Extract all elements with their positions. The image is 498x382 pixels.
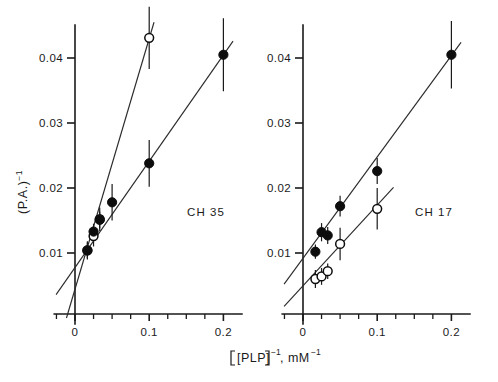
data-point-open — [323, 267, 332, 276]
y-axis-title-main: (P.A.) — [16, 181, 30, 214]
svg-text:(P.A.)−1: (P.A.)−1 — [14, 170, 30, 214]
panel-left: 00.10.20.010.020.030.04CH 35 — [39, 7, 242, 338]
data-point-filled — [83, 246, 92, 255]
data-point-filled — [219, 50, 228, 59]
double-reciprocal-plot: 00.10.20.010.020.030.04CH 35 00.10.20.01… — [0, 0, 498, 382]
x-tick-label: 0.1 — [141, 326, 158, 338]
y-tick-label: 0.04 — [267, 52, 291, 64]
y-tick-label: 0.03 — [267, 117, 291, 129]
data-point-open — [373, 204, 382, 213]
y-tick-label: 0.01 — [39, 247, 63, 259]
fit-line-open-circles — [66, 22, 154, 318]
data-point-filled — [373, 167, 382, 176]
x-tick-label: 0.1 — [369, 326, 386, 338]
x-axis-title: [PLP] −1 , mM −1 — [231, 347, 321, 365]
left-bracket-icon — [231, 351, 235, 365]
y-axis-title: (P.A.)−1 — [14, 170, 30, 214]
x-tick-label: 0.2 — [215, 326, 232, 338]
x-axis-title-exponent-2: −1 — [311, 347, 321, 357]
data-point-filled — [89, 227, 98, 236]
y-tick-label: 0.01 — [267, 247, 291, 259]
fit-line-filled-circles — [284, 42, 461, 284]
x-axis-title-mid: , mM — [280, 351, 310, 365]
y-tick-label: 0.02 — [39, 182, 63, 194]
x-tick-label: 0 — [72, 326, 79, 338]
fit-line-filled-circles — [56, 41, 233, 295]
data-point-filled — [336, 202, 345, 211]
svg-text:[PLP]: [PLP] — [237, 351, 270, 365]
data-point-filled — [311, 247, 320, 256]
figure-root: 00.10.20.010.020.030.04CH 35 00.10.20.01… — [0, 0, 498, 382]
y-tick-label: 0.03 — [39, 117, 63, 129]
data-point-filled — [447, 50, 456, 59]
y-axis-title-exponent: −1 — [14, 170, 24, 181]
data-point-filled — [95, 215, 104, 224]
panel-label: CH 17 — [415, 206, 453, 218]
data-point-filled — [108, 198, 117, 207]
data-point-filled — [145, 159, 154, 168]
data-point-open — [336, 240, 345, 249]
data-point-filled — [323, 231, 332, 240]
x-tick-label: 0.2 — [443, 326, 460, 338]
data-point-open — [145, 33, 154, 42]
panel-right: 00.10.20.010.020.030.04CH 17 — [267, 21, 470, 338]
y-tick-label: 0.04 — [39, 52, 63, 64]
x-axis-title-main: [PLP] — [237, 351, 270, 365]
x-tick-label: 0 — [300, 326, 307, 338]
y-tick-label: 0.02 — [267, 182, 291, 194]
panel-label: CH 35 — [187, 206, 225, 218]
